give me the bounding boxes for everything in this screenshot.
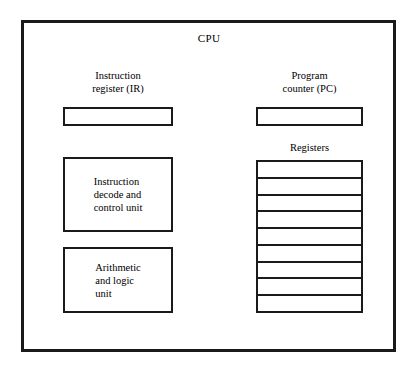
register-cell [258, 263, 361, 280]
registers-caption: Registers [256, 142, 363, 155]
instruction-register-box [63, 107, 173, 126]
program-counter-caption-line2: counter (PC) [256, 83, 363, 96]
cpu-block-diagram: CPU Instruction register (IR) Instructio… [0, 0, 418, 368]
arithmetic-logic-unit-box: Arithmetic and logic unit [63, 247, 173, 313]
register-cell [258, 179, 361, 196]
cpu-title: CPU [0, 32, 418, 44]
instruction-register-caption-line1: Instruction [63, 70, 173, 83]
program-counter-caption: Program counter (PC) [256, 70, 363, 95]
instruction-register-caption-line2: register (IR) [63, 83, 173, 96]
register-cell [258, 212, 361, 229]
register-cell [258, 229, 361, 246]
program-counter-box [256, 107, 363, 126]
program-counter-caption-line1: Program [256, 70, 363, 83]
register-cell [258, 162, 361, 179]
registers-stack [256, 160, 363, 313]
instruction-register-caption: Instruction register (IR) [63, 70, 173, 95]
arithmetic-logic-unit-label: Arithmetic and logic unit [95, 261, 141, 300]
register-cell [258, 296, 361, 311]
instruction-decode-control-unit-box: Instruction decode and control unit [63, 157, 173, 232]
register-cell [258, 279, 361, 296]
register-cell [258, 246, 361, 263]
register-cell [258, 196, 361, 213]
instruction-decode-control-unit-label: Instruction decode and control unit [94, 175, 143, 214]
